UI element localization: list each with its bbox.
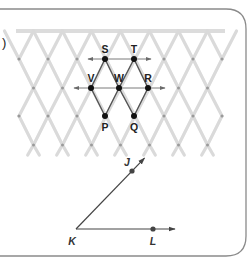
lattice-node: [192, 115, 195, 118]
geometry-figure: ) STVWRPQ KJL: [0, 0, 249, 262]
point-j: [129, 168, 134, 173]
lattice-node: [163, 58, 166, 61]
construction: STVWRPQ: [74, 43, 165, 133]
point-v: [88, 85, 94, 91]
lattice-node: [18, 58, 21, 61]
lattice-node: [177, 87, 180, 90]
part-marker: ): [2, 35, 6, 50]
point-label-t: T: [131, 43, 138, 55]
point-label-p: P: [101, 121, 108, 133]
point-label-l: L: [150, 235, 156, 247]
lattice-node: [177, 144, 180, 147]
point-label-j: J: [124, 156, 131, 168]
point-r: [145, 85, 151, 91]
point-w: [116, 85, 122, 91]
lattice-node: [163, 115, 166, 118]
point-label-s: S: [101, 43, 108, 55]
lattice-node: [119, 144, 122, 147]
ray-kj: [76, 158, 145, 229]
point-label-v: V: [87, 72, 94, 84]
lattice-node: [90, 144, 93, 147]
point-l: [150, 226, 155, 231]
point-label-q: Q: [130, 121, 138, 133]
lattice-node: [32, 144, 35, 147]
vertex-label-k: K: [68, 235, 77, 247]
point-p: [102, 113, 108, 119]
point-t: [131, 56, 137, 62]
lattice-node: [221, 115, 224, 118]
lattice-node: [47, 58, 50, 61]
lattice-node: [206, 144, 209, 147]
lattice-node: [76, 115, 79, 118]
panel-frame: [0, 9, 246, 256]
lattice-node: [61, 87, 64, 90]
point-label-r: R: [144, 72, 152, 84]
lattice-node: [61, 144, 64, 147]
lattice-node: [192, 58, 195, 61]
lattice-node: [206, 87, 209, 90]
point-label-w: W: [114, 72, 124, 84]
lattice-node: [76, 58, 79, 61]
angle-jkl: KJL: [68, 156, 175, 247]
lattice-node: [47, 115, 50, 118]
lattice-node: [32, 87, 35, 90]
lattice-node: [148, 144, 151, 147]
point-q: [131, 113, 137, 119]
point-s: [102, 56, 108, 62]
lattice-node: [18, 115, 21, 118]
scissor-lattice: [5, 31, 237, 155]
lattice-node: [221, 58, 224, 61]
